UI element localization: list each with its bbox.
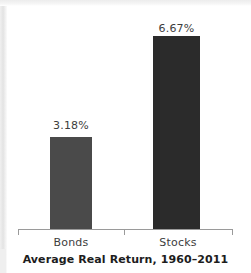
bar-stocks <box>153 36 200 229</box>
bar-value-label-stocks: 6.67% <box>153 22 200 35</box>
x-axis-line <box>18 229 232 230</box>
x-axis-tick-left <box>18 229 19 235</box>
bar-chart-figure: 3.18% 6.67% Bonds Stocks Average Real Re… <box>0 0 251 273</box>
x-axis-tick-center <box>124 229 125 235</box>
bar-bonds <box>50 137 92 229</box>
x-axis-label-stocks: Stocks <box>124 236 232 249</box>
x-axis-label-bonds: Bonds <box>18 236 124 249</box>
bar-value-label-bonds: 3.18% <box>50 119 92 132</box>
chart-title: Average Real Return, 1960–2011 <box>0 253 251 266</box>
x-axis-tick-right <box>232 229 233 235</box>
plot-area: 3.18% 6.67% Bonds Stocks Average Real Re… <box>0 0 251 273</box>
